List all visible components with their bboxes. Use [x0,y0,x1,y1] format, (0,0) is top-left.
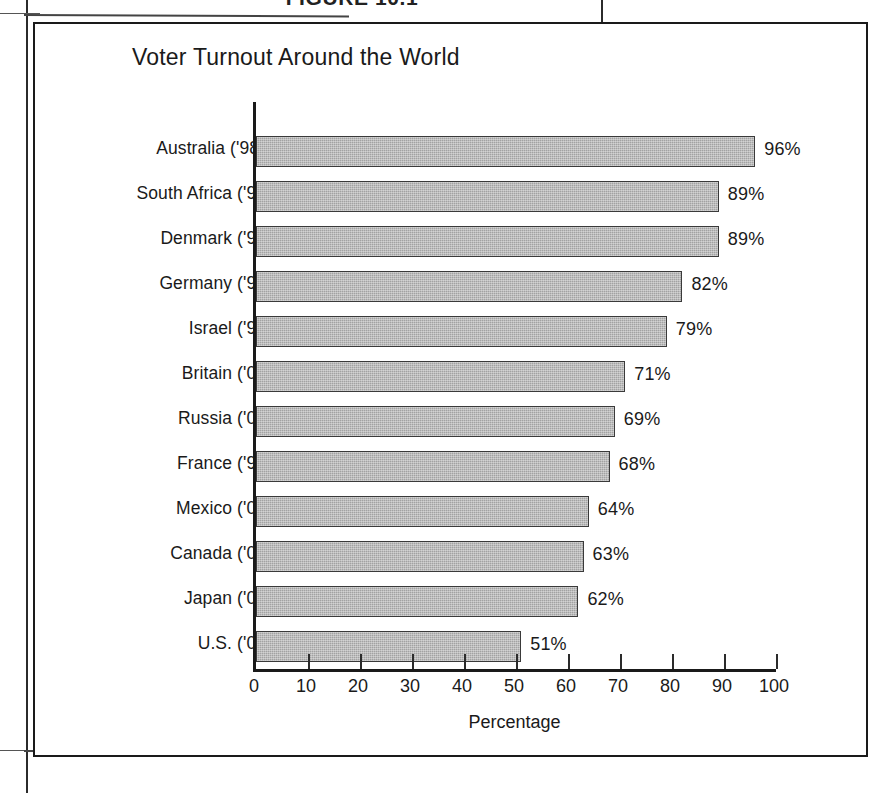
chart-container: Voter Turnout Around the World Australia… [33,22,868,757]
x-tick-label: 80 [660,676,680,697]
x-axis-title: Percentage [253,712,776,733]
x-tick-mark [360,654,362,669]
x-tick-mark [412,654,414,669]
x-tick-mark [620,654,622,669]
x-tick-label: 90 [712,676,732,697]
x-tick-label: 30 [400,676,420,697]
page-rule-top [24,14,349,17]
x-tick-label: 100 [759,676,789,697]
x-tick-mark [776,654,778,669]
x-tick-mark [516,654,518,669]
x-tick-mark [568,654,570,669]
x-tick-label: 60 [556,676,576,697]
plot-area: Australia ('98*)96%South Africa ('99)89%… [35,24,870,759]
scanned-page: FIGURE 10.1 Voter Turnout Around the Wor… [0,0,893,793]
figure-caption: FIGURE 10.1 [232,0,472,10]
x-tick-mark [308,654,310,669]
page-margin-rule [26,0,28,793]
x-tick-mark [672,654,674,669]
x-tick-label: 10 [296,676,316,697]
x-tick-label: 0 [249,676,259,697]
x-tick-label: 50 [504,676,524,697]
x-axis-ticks: 0102030405060708090100 [35,24,870,759]
x-tick-label: 40 [452,676,472,697]
x-tick-mark [724,654,726,669]
x-tick-label: 70 [608,676,628,697]
x-tick-mark [464,654,466,669]
x-tick-label: 20 [348,676,368,697]
